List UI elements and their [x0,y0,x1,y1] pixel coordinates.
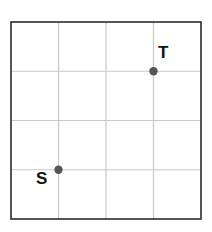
grid-svg [0,0,212,232]
node-dot-S[interactable] [54,166,62,174]
node-dot-T[interactable] [149,67,157,75]
node-label-T: T [158,44,168,61]
node-label-S: S [36,170,47,187]
grid-diagram-canvas: S T [0,0,212,232]
